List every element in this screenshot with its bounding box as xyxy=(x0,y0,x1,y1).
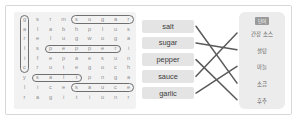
grid-cell[interactable]: p xyxy=(57,54,70,64)
grid-cell[interactable]: e xyxy=(31,34,44,44)
grid-cell[interactable]: w xyxy=(83,34,96,44)
grid-cell[interactable]: p xyxy=(83,44,96,54)
answer-column-header: 단어 xyxy=(255,17,269,25)
grid-cell[interactable]: l xyxy=(31,25,44,35)
grid-cell[interactable]: e xyxy=(44,54,57,64)
grid-cell[interactable]: u xyxy=(83,15,96,25)
grid-cell[interactable]: o xyxy=(96,34,109,44)
grid-cell[interactable]: c xyxy=(44,83,57,93)
grid-cell[interactable]: b xyxy=(57,25,70,35)
connector-line-1 xyxy=(196,43,237,50)
grid-cell[interactable]: c xyxy=(109,83,122,93)
grid-cell[interactable]: r xyxy=(18,34,31,44)
grid-cell[interactable]: r xyxy=(31,63,44,73)
grid-cell[interactable]: i xyxy=(83,93,96,103)
word-pill-sugar[interactable]: sugar xyxy=(142,37,194,50)
grid-cell[interactable]: g xyxy=(109,34,122,44)
grid-cell[interactable]: a xyxy=(109,15,122,25)
answer-item-0[interactable]: 간장 소스 xyxy=(239,30,285,38)
word-pill-garlic[interactable]: garlic xyxy=(142,87,194,100)
grid-cell[interactable]: a xyxy=(70,54,83,64)
grid-cell[interactable]: r xyxy=(109,44,122,54)
grid-cell[interactable]: l xyxy=(18,83,31,93)
grid-cell[interactable]: e xyxy=(96,44,109,54)
grid-cell[interactable]: h xyxy=(122,63,135,73)
grid-cell[interactable]: i xyxy=(57,93,70,103)
grid-cell[interactable]: n xyxy=(122,54,135,64)
grid-cell[interactable]: e xyxy=(57,83,70,93)
grid-cell[interactable]: g xyxy=(70,34,83,44)
grid-cell[interactable]: a xyxy=(18,25,31,35)
grid-cell[interactable]: i xyxy=(31,83,44,93)
grid-cell[interactable]: h xyxy=(70,25,83,35)
grid-cell[interactable]: u xyxy=(96,83,109,93)
grid-row: licesauce xyxy=(18,83,136,93)
grid-cell[interactable]: e xyxy=(83,54,96,64)
grid-cell[interactable]: l xyxy=(44,34,57,44)
grid-cell[interactable]: l xyxy=(18,44,31,54)
grid-cell[interactable]: a xyxy=(83,83,96,93)
grid-cell[interactable]: c xyxy=(18,63,31,73)
grid-cell[interactable]: i xyxy=(18,54,31,64)
grid-cell[interactable]: c xyxy=(109,63,122,73)
grid-cell[interactable]: f xyxy=(31,54,44,64)
grid-cell[interactable]: o xyxy=(96,93,109,103)
grid-cell[interactable]: s xyxy=(96,54,109,64)
grid-cell[interactable]: l xyxy=(57,73,70,83)
grid-cell[interactable]: a xyxy=(122,34,135,44)
grid-cell[interactable]: a xyxy=(31,93,44,103)
grid-cell[interactable]: r xyxy=(122,93,135,103)
grid-row: gsrmsugar xyxy=(18,15,136,25)
grid-cell[interactable]: i xyxy=(122,44,135,54)
grid-cell[interactable]: n xyxy=(96,73,109,83)
grid-cell[interactable]: s xyxy=(122,25,135,35)
grid-cell[interactable]: t xyxy=(70,93,83,103)
grid-cell[interactable]: g xyxy=(83,63,96,73)
answer-item-1[interactable]: 설탕 xyxy=(239,47,285,55)
grid-cell[interactable]: t xyxy=(70,73,83,83)
grid-row: ysaltpnga xyxy=(18,73,136,83)
grid-cell[interactable]: g xyxy=(18,15,31,25)
grid-cell[interactable]: p xyxy=(83,73,96,83)
grid-cell[interactable]: g xyxy=(109,73,122,83)
grid-cell[interactable]: o xyxy=(96,63,109,73)
grid-cell[interactable]: g xyxy=(44,93,57,103)
grid-cell[interactable]: y xyxy=(18,73,31,83)
word-pill-sauce[interactable]: sauce xyxy=(142,70,194,83)
grid-cell[interactable]: r xyxy=(122,15,135,25)
grid-cell[interactable]: e xyxy=(122,83,135,93)
grid-cell[interactable]: p xyxy=(70,44,83,54)
grid-cell[interactable]: t xyxy=(57,63,70,73)
answer-item-4[interactable]: 후추 xyxy=(239,97,285,105)
grid-cell[interactable]: s xyxy=(70,15,83,25)
answer-item-3[interactable]: 소금 xyxy=(239,80,285,88)
connector-line-0 xyxy=(196,26,237,83)
matching-exercise-panel: saltsugarpeppersaucegarlic 단어 간장 소스설탕마늘소… xyxy=(142,12,285,109)
grid-cell[interactable]: m xyxy=(57,15,70,25)
word-pill-salt[interactable]: salt xyxy=(142,20,194,33)
worksheet-frame: gsrmsugaralabhplusrelugwogalspepperiifep… xyxy=(5,5,292,115)
grid-cell[interactable]: e xyxy=(70,63,83,73)
grid-cell[interactable]: s xyxy=(31,44,44,54)
answer-item-2[interactable]: 마늘 xyxy=(239,63,285,71)
grid-cell[interactable]: l xyxy=(96,25,109,35)
grid-cell[interactable]: p xyxy=(44,44,57,54)
grid-cell[interactable]: r xyxy=(44,15,57,25)
grid-cell[interactable]: g xyxy=(96,15,109,25)
grid-cell[interactable]: u xyxy=(109,25,122,35)
word-search-grid[interactable]: gsrmsugaralabhplusrelugwogalspepperiifep… xyxy=(14,12,136,109)
grid-cell[interactable]: p xyxy=(83,25,96,35)
grid-cell[interactable]: u xyxy=(57,34,70,44)
word-pill-pepper[interactable]: pepper xyxy=(142,53,194,66)
grid-cell[interactable]: a xyxy=(122,73,135,83)
grid-cell[interactable]: n xyxy=(109,93,122,103)
grid-cell[interactable]: s xyxy=(31,73,44,83)
grid-cell[interactable]: u xyxy=(109,54,122,64)
grid-cell[interactable]: u xyxy=(44,63,57,73)
grid-cell[interactable]: a xyxy=(44,25,57,35)
grid-cell[interactable]: s xyxy=(70,83,83,93)
grid-cell[interactable]: e xyxy=(57,44,70,54)
grid-cell[interactable]: r xyxy=(18,93,31,103)
grid-cell[interactable]: s xyxy=(31,15,44,25)
grid-cell[interactable]: a xyxy=(44,73,57,83)
